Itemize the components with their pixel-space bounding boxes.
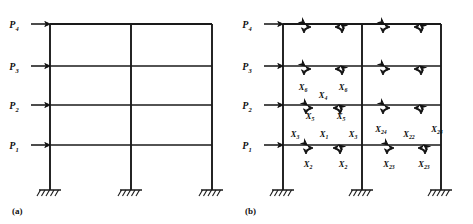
panel-b-load-p1: P1: [242, 140, 283, 153]
force-triad: [378, 19, 390, 33]
panel-a-load-p2: P2: [9, 100, 50, 113]
force-label: X6: [338, 82, 348, 93]
force-label: X5: [305, 111, 315, 122]
force-triad: [378, 100, 390, 114]
force-label: X24: [374, 124, 387, 135]
force-label: X22: [402, 129, 415, 140]
force-triad: [299, 19, 311, 33]
force-label: X1: [319, 129, 329, 140]
panel-a-caption: (a): [12, 206, 23, 216]
load-label-p3-b: P3: [242, 61, 252, 74]
force-label: X2: [338, 159, 348, 170]
panel-a-supports: [37, 190, 223, 196]
load-label-p1: P1: [9, 140, 18, 153]
load-label-p2-b: P2: [242, 100, 252, 113]
structural-frame-figure: P4 P3 P2 P1 (a): [0, 0, 473, 224]
load-label-p1-b: P1: [242, 140, 251, 153]
load-label-p2: P2: [9, 100, 19, 113]
force-label: X3: [290, 129, 300, 140]
panel-a-columns: [50, 24, 212, 190]
force-triad: [299, 61, 311, 75]
load-label-p4: P4: [9, 19, 19, 32]
force-label: X5: [336, 111, 346, 122]
force-label: X3: [348, 129, 358, 140]
force-label: X6: [298, 82, 308, 93]
panel-a-load-p1: P1: [9, 140, 50, 153]
load-label-p3: P3: [9, 61, 19, 74]
force-label: X23: [382, 159, 395, 170]
panel-a-load-p4: P4: [9, 19, 50, 32]
panel-b-supports: [270, 190, 452, 196]
force-label: X23: [417, 159, 430, 170]
panel-a: P4 P3 P2 P1 (a): [9, 19, 223, 216]
panel-b-load-p4: P4: [242, 19, 283, 32]
load-label-p4-b: P4: [242, 19, 252, 32]
force-label: X2: [303, 159, 313, 170]
panel-b-load-p3: P3: [242, 61, 283, 74]
force-triad: [378, 61, 390, 75]
panel-b-load-p2: P2: [242, 100, 283, 113]
force-triad: [301, 140, 313, 154]
panel-b: P4 P3 P2 P1: [242, 19, 452, 216]
panel-b-caption: (b): [245, 206, 256, 216]
force-label: X4: [318, 90, 328, 101]
panel-a-load-p3: P3: [9, 61, 50, 74]
force-triad: [382, 140, 394, 154]
